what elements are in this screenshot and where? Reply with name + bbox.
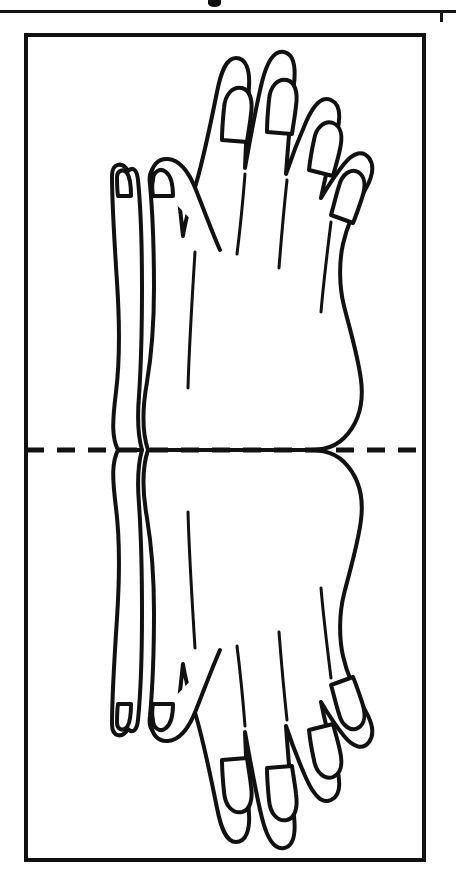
upper-hand — [112, 52, 372, 450]
lower-hand — [112, 450, 372, 848]
middle-finger-nail — [267, 766, 297, 820]
index-finger-nail — [222, 88, 252, 142]
second-hand-outline — [112, 165, 142, 450]
second-hand-outline — [112, 450, 142, 735]
template-page — [0, 0, 456, 892]
second-hand-thumb-nail — [117, 704, 131, 730]
second-hand-thumb-nail — [117, 170, 131, 196]
thumb-nail — [152, 704, 173, 730]
index-finger-nail — [222, 758, 252, 812]
hand-outline — [143, 52, 372, 450]
middle-finger-nail — [267, 80, 297, 134]
hand-template-artwork — [0, 0, 456, 892]
hand-outline — [143, 450, 372, 848]
thumb-nail — [152, 170, 173, 196]
